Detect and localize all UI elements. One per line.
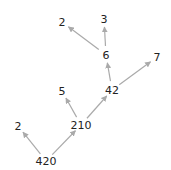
edge-arrow (107, 63, 110, 81)
edge-arrow (66, 98, 77, 117)
edge-arrow (52, 131, 75, 155)
node-420: 420 (36, 156, 57, 167)
node-5: 5 (59, 86, 66, 97)
node-6: 6 (103, 50, 110, 61)
node-7: 7 (154, 52, 161, 63)
node-42: 42 (105, 85, 119, 96)
edge-arrow (104, 27, 105, 46)
edge-arrow (23, 132, 40, 154)
node-210: 210 (71, 120, 92, 131)
factor-tree-diagram: 420 2 210 5 42 6 7 2 3 (0, 0, 171, 170)
node-3: 3 (101, 14, 108, 25)
edge-arrow (119, 62, 150, 85)
node-2-top: 2 (59, 17, 66, 28)
node-2-left: 2 (15, 121, 22, 132)
edge-arrow (87, 96, 107, 118)
edge-layer (0, 0, 171, 170)
edge-arrow (68, 27, 98, 50)
